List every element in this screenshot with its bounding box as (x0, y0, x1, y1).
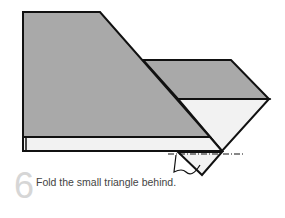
step-number: 6 (14, 168, 34, 204)
paper-model (23, 12, 269, 175)
bottom-strip (23, 137, 222, 151)
step-instruction: Fold the small triangle behind. (36, 176, 176, 188)
